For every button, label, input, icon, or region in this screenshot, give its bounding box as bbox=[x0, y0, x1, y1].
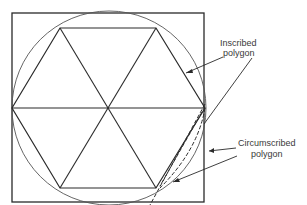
hexagon-diagonals bbox=[12, 28, 205, 188]
circumscribed-polygon-segments bbox=[150, 104, 205, 205]
inscribed-label-line2: polygon bbox=[223, 48, 255, 58]
circumscribed-label-line1: Circumscribed bbox=[238, 138, 296, 148]
inscribed-label-line1: Inscribed bbox=[220, 38, 257, 48]
polygon-circle-diagram: Inscribed polygon Circumscribed polygon bbox=[0, 0, 307, 205]
circumscribed-label-line2: polygon bbox=[251, 149, 283, 159]
